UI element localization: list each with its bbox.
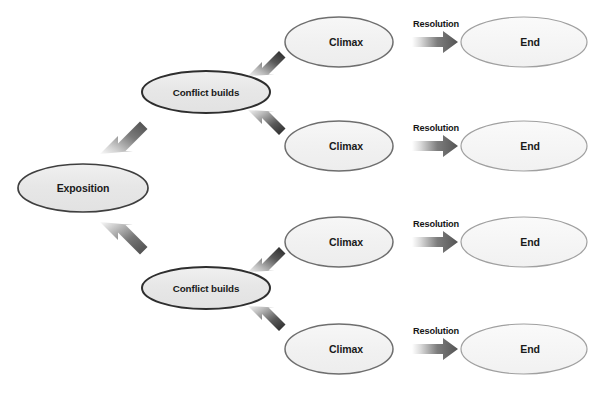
- node-climax-3[interactable]: Climax: [285, 217, 393, 267]
- node-climax-4[interactable]: Climax: [285, 324, 393, 374]
- node-conflict-builds-top[interactable]: Conflict builds: [142, 71, 270, 113]
- story-structure-diagram: Resolution Resolution Resolution Resolut…: [0, 0, 604, 397]
- edge-label-resolution: Resolution: [413, 326, 460, 336]
- node-exposition[interactable]: Exposition: [18, 164, 148, 212]
- node-conflict-builds-bottom[interactable]: Conflict builds: [142, 267, 270, 309]
- edge-label-resolution: Resolution: [413, 219, 460, 229]
- edge-label-resolution: Resolution: [413, 19, 460, 29]
- node-label-conflict-builds: Conflict builds: [173, 87, 240, 98]
- node-label-exposition: Exposition: [57, 182, 110, 194]
- node-end-4[interactable]: End: [461, 324, 587, 374]
- node-end-3[interactable]: End: [461, 217, 587, 267]
- node-climax-2[interactable]: Climax: [285, 121, 393, 171]
- node-label-end: End: [520, 236, 540, 248]
- node-label-end: End: [520, 140, 540, 152]
- node-label-climax: Climax: [329, 140, 363, 152]
- node-label-end: End: [520, 343, 540, 355]
- node-label-climax: Climax: [329, 343, 363, 355]
- node-label-end: End: [520, 36, 540, 48]
- node-label-climax: Climax: [329, 236, 363, 248]
- node-climax-1[interactable]: Climax: [285, 17, 393, 67]
- node-end-1[interactable]: End: [461, 17, 587, 67]
- node-label-conflict-builds: Conflict builds: [173, 283, 240, 294]
- node-label-climax: Climax: [329, 36, 363, 48]
- diagram-canvas: Resolution Resolution Resolution Resolut…: [0, 0, 604, 397]
- node-end-2[interactable]: End: [461, 121, 587, 171]
- edge-label-resolution: Resolution: [413, 123, 460, 133]
